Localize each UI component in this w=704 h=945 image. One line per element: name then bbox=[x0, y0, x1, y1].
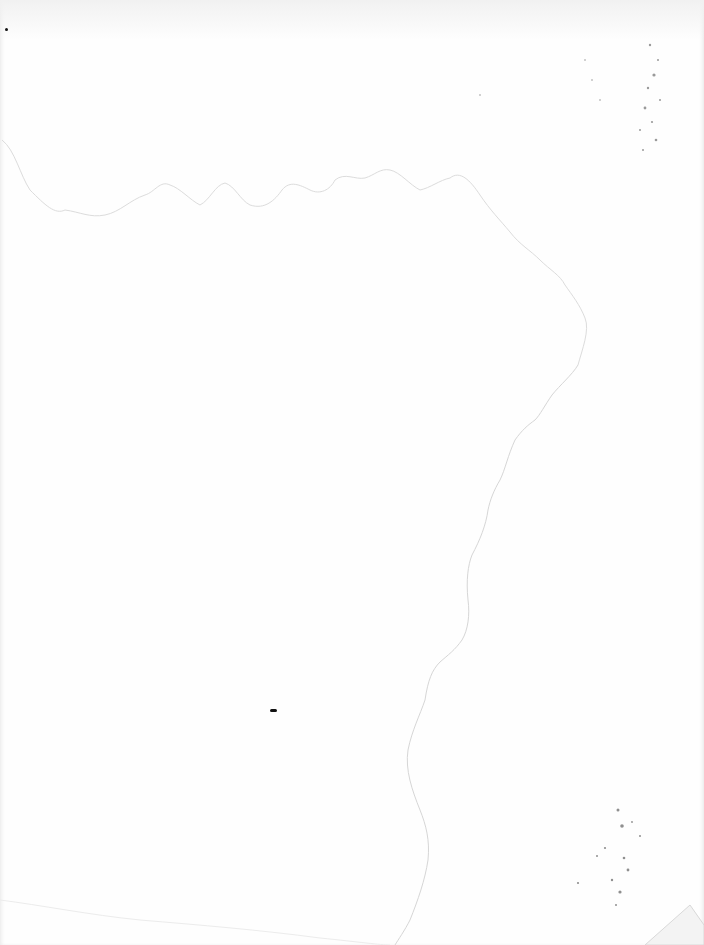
folded-corner bbox=[645, 905, 704, 945]
dark-speck bbox=[5, 28, 8, 31]
speckles-top-right bbox=[479, 44, 661, 151]
dark-dash-mark bbox=[270, 709, 277, 712]
water-stain-outlines bbox=[0, 0, 704, 945]
blank-scanned-page bbox=[0, 0, 704, 945]
speckles-bottom-right bbox=[577, 809, 641, 907]
